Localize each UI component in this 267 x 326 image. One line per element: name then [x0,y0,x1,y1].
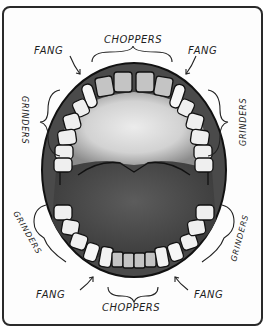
upper-chopper-tooth [136,72,154,92]
bottom-right-fang-arrow [175,277,188,290]
label-upper-grinders-left: GRINDERS [20,96,29,144]
lower-chopper-tooth [145,252,156,267]
upper-chopper-tooth [95,76,115,98]
bottom-choppers-bracket [108,287,158,302]
label-bottom-fang-right: FANG [194,289,223,300]
bottom-left-fang-arrow [80,277,93,290]
label-top-choppers: CHOPPERS [104,34,162,45]
upper-grinder-tooth [194,145,212,159]
lower-chopper-tooth [112,252,123,267]
upper-grinder-tooth [57,129,77,146]
lower-grinder-tooth [54,205,72,220]
top-left-fang-arrow [70,56,80,74]
label-top-fang-left: FANG [34,45,63,56]
upper-grinder-tooth [190,129,210,146]
label-lower-grinders-right: GRINDERS [229,213,250,262]
lower-chopper-tooth [123,253,134,268]
label-bottom-choppers: CHOPPERS [102,302,160,313]
top-right-fang-arrow [186,56,196,74]
lower-chopper-tooth [134,253,145,268]
label-bottom-fang-left: FANG [36,289,65,300]
upper-grinder-tooth [55,145,73,159]
top-choppers-bracket [92,46,172,62]
label-upper-grinders-right: GRINDERS [239,98,248,146]
upper-chopper-tooth [153,76,173,98]
label-lower-grinders-left: GRINDERS [11,210,43,256]
upper-grinder-tooth [54,158,72,172]
lower-grinder-tooth [187,219,206,237]
lower-grinder-tooth [196,205,214,220]
label-top-fang-right: FANG [188,45,217,56]
upper-grinder-tooth [195,158,213,172]
upper-chopper-tooth [114,72,132,92]
